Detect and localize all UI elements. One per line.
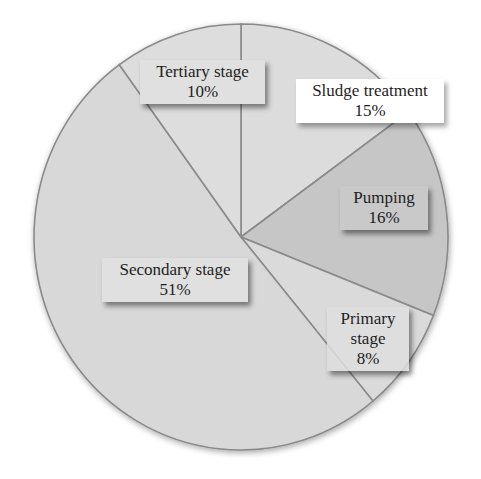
label-pumping: Pumping 16% [340,186,428,230]
label-tertiary-pct: 10% [144,82,261,102]
label-sludge-treatment: Sludge treatment 15% [296,79,444,123]
label-secondary-pct: 51% [106,280,244,300]
label-secondary-name: Secondary stage [106,260,244,280]
label-primary-name-line2: stage [331,329,405,349]
label-primary-stage: Primary stage 8% [327,307,409,371]
label-pumping-pct: 16% [344,208,424,228]
label-pumping-name: Pumping [344,188,424,208]
label-sludge-pct: 15% [300,101,440,121]
label-tertiary-stage: Tertiary stage 10% [140,60,265,104]
label-tertiary-name: Tertiary stage [144,62,261,82]
label-primary-name-line1: Primary [331,309,405,329]
label-primary-pct: 8% [331,349,405,369]
label-secondary-stage: Secondary stage 51% [102,258,248,302]
label-sludge-name: Sludge treatment [300,81,440,101]
